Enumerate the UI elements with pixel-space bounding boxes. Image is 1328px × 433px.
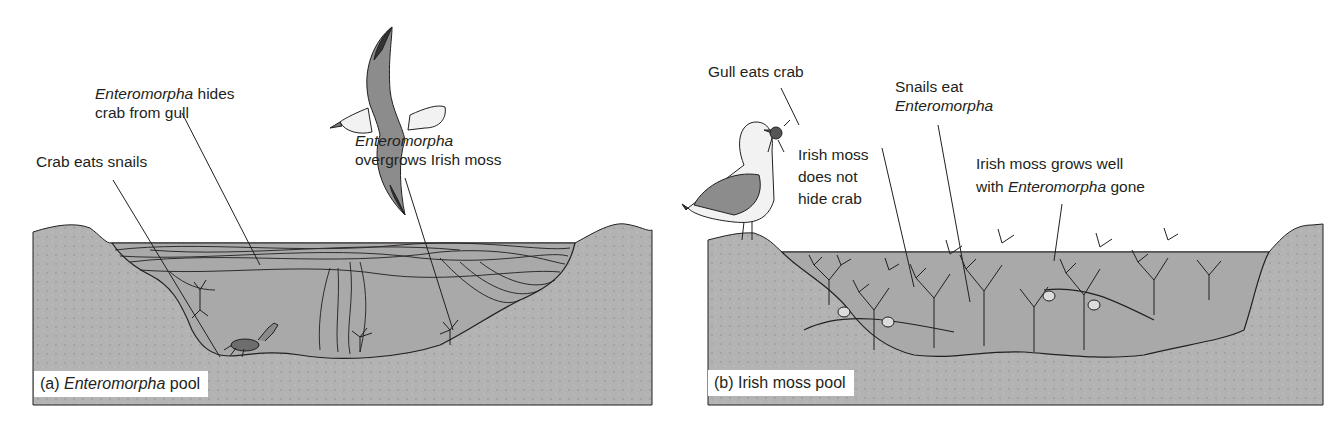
panel-enteromorpha-pool: Enteromorpha hides crab from gull Crab e… xyxy=(0,0,664,433)
caption-panel-b: (b) Irish moss pool xyxy=(708,370,854,396)
label-enteromorpha-overgrows: Enteromorpha overgrows Irish moss xyxy=(355,131,501,169)
panel-irish-moss-pool: Gull eats crab Snails eat Enteromorpha I… xyxy=(664,0,1328,433)
label-snails-eat-enteromorpha: Snails eat Enteromorpha xyxy=(895,77,993,115)
label-crab-eats-snails: Crab eats snails xyxy=(36,152,147,171)
enteromorpha-pool-illustration xyxy=(0,0,664,433)
label-irish-moss-grows-well: Irish moss grows well with Enteromorpha … xyxy=(976,152,1145,198)
caption-panel-a: (a) Enteromorpha pool xyxy=(34,371,208,397)
label-enteromorpha-hides-crab: Enteromorpha hides crab from gull xyxy=(95,84,235,122)
label-gull-eats-crab: Gull eats crab xyxy=(708,62,804,81)
standing-gull-icon xyxy=(682,122,776,240)
flying-gull-icon xyxy=(330,27,445,215)
label-irish-moss-does-not-hide-crab: Irish moss does not hide crab xyxy=(798,144,869,210)
